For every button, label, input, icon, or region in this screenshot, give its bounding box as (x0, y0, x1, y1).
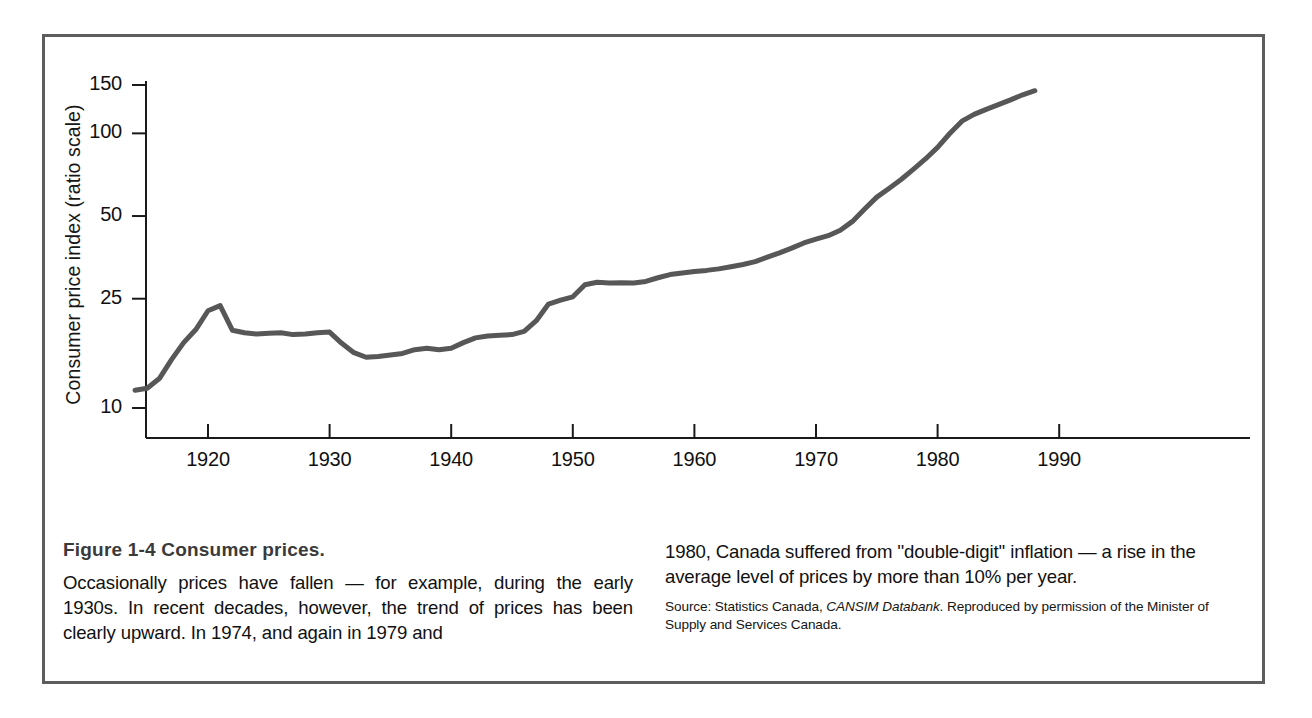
chart-area: Consumer price index (ratio scale) 10255… (45, 37, 1268, 507)
x-tick-label: 1990 (1019, 448, 1099, 471)
caption-text-right: 1980, Canada suffered from ''double-digi… (665, 539, 1245, 589)
x-tick-label: 1930 (290, 448, 370, 471)
y-tick-label: 10 (46, 395, 122, 418)
x-tick-label: 1920 (168, 448, 248, 471)
figure-frame: Consumer price index (ratio scale) 10255… (42, 34, 1265, 684)
x-tick-label: 1970 (776, 448, 856, 471)
y-tick-label: 150 (46, 72, 122, 95)
x-tick-label: 1950 (533, 448, 613, 471)
y-tick-label: 25 (46, 286, 122, 309)
y-tick-label: 50 (46, 203, 122, 226)
caption-block: Figure 1-4 Consumer prices. Occasionally… (45, 507, 1268, 684)
y-tick-label: 100 (46, 120, 122, 143)
x-tick-label: 1980 (898, 448, 978, 471)
x-tick-label: 1940 (411, 448, 491, 471)
source-publication: CANSIM Databank (826, 599, 939, 614)
cpi-series-line (135, 91, 1035, 391)
x-tick-label: 1960 (654, 448, 734, 471)
cpi-line-chart (45, 37, 1268, 507)
caption-right-column: 1980, Canada suffered from ''double-digi… (665, 539, 1245, 634)
caption-text-left: Occasionally prices have fallen — for ex… (63, 570, 633, 645)
caption-left-column: Figure 1-4 Consumer prices. Occasionally… (63, 539, 633, 645)
figure-title: Figure 1-4 Consumer prices. (63, 539, 633, 561)
source-attribution: Source: Statistics Canada, CANSIM Databa… (665, 598, 1245, 634)
source-prefix: Source: Statistics Canada, (665, 599, 826, 614)
